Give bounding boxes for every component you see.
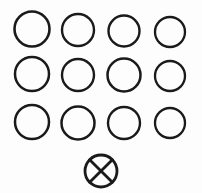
open-circle-r3c2 <box>62 107 95 140</box>
open-circles-group <box>15 12 186 140</box>
open-circle-r2c4 <box>155 61 185 91</box>
figure-canvas <box>0 0 202 193</box>
open-circle-r2c2 <box>62 59 94 91</box>
open-circle-r2c1 <box>15 57 49 91</box>
open-circle-r3c3 <box>108 107 140 139</box>
circles-diagram <box>0 0 202 193</box>
crossed-circle-crossed <box>85 155 117 187</box>
open-circle-r3c1 <box>15 105 49 139</box>
open-circle-r1c2 <box>62 14 94 46</box>
crossed-circles-group <box>85 155 117 187</box>
open-circle-r1c4 <box>155 17 185 47</box>
open-circle-r1c1 <box>15 12 50 47</box>
open-circle-r2c3 <box>108 59 141 92</box>
open-circle-r1c3 <box>109 16 140 47</box>
open-circle-r3c4 <box>155 108 185 138</box>
